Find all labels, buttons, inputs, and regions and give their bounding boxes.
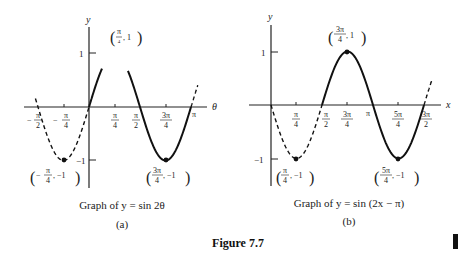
svg-text:3π: 3π xyxy=(162,111,170,120)
svg-text:4: 4 xyxy=(283,176,287,185)
panel-b: y x 1 −1 π 4 π 2 3π 4 π 5π 4 3π 2 ( 3π xyxy=(249,11,451,187)
svg-text:, −1: , −1 xyxy=(392,171,405,180)
svg-text:−: − xyxy=(53,116,58,125)
curve-a-dashed-right xyxy=(191,85,198,107)
y-tick-label-neg1-b: −1 xyxy=(254,155,264,165)
svg-text:5π: 5π xyxy=(394,110,402,119)
x-tick-labels-b: π 4 π 2 3π 4 π 5π 4 3π 2 xyxy=(292,109,432,129)
point-b-min-left xyxy=(294,157,299,162)
svg-text:π: π xyxy=(294,110,298,119)
svg-text:): ) xyxy=(185,169,190,187)
svg-text:π: π xyxy=(283,166,287,175)
svg-text:4: 4 xyxy=(345,120,349,129)
svg-text:4: 4 xyxy=(46,176,50,185)
panel-a: y θ 1 −1 − π 2 − π 4 π 4 π 2 3π 4 xyxy=(24,14,217,188)
svg-text:(: ( xyxy=(276,169,281,187)
svg-text:π: π xyxy=(366,109,370,118)
point-b-max xyxy=(345,50,350,55)
figure-label: Figure 7.7 xyxy=(212,236,264,251)
svg-text:(: ( xyxy=(146,169,151,187)
caption-b: Graph of y = sin (2x − π) xyxy=(294,197,405,209)
svg-text:π: π xyxy=(36,111,40,120)
svg-text:4: 4 xyxy=(384,176,388,185)
y-axis-label-a: y xyxy=(85,14,91,25)
caption-a: Graph of y = sin 2θ xyxy=(79,199,165,211)
svg-text:3π: 3π xyxy=(153,166,161,175)
x-tick-labels-a: − π 2 − π 4 π 4 π 2 3π 4 π xyxy=(27,110,196,130)
svg-text:): ) xyxy=(137,29,142,47)
y-tick-label-1-a: 1 xyxy=(79,49,84,59)
svg-text:, 1: , 1 xyxy=(346,31,354,40)
x-axis-label-a: θ xyxy=(212,101,217,112)
svg-text:π: π xyxy=(113,111,117,120)
sublabel-b: (b) xyxy=(343,215,356,227)
y-tick-label-1-b: 1 xyxy=(261,48,266,58)
svg-text:3π: 3π xyxy=(422,110,430,119)
svg-text:3π: 3π xyxy=(336,25,344,34)
svg-text:): ) xyxy=(414,169,419,187)
svg-text:(: ( xyxy=(374,169,379,187)
svg-text:): ) xyxy=(75,169,80,187)
svg-text:4: 4 xyxy=(118,39,121,44)
curve-b-dashed-right xyxy=(424,81,432,105)
svg-text:π: π xyxy=(324,110,328,119)
svg-text:2: 2 xyxy=(424,120,428,129)
svg-text:π: π xyxy=(192,110,196,119)
svg-text:π: π xyxy=(134,111,138,120)
svg-text:4: 4 xyxy=(294,120,298,129)
x-axis-label-b: x xyxy=(445,99,451,110)
svg-text:4: 4 xyxy=(164,121,168,130)
svg-text:−: − xyxy=(36,171,41,180)
svg-text:(: ( xyxy=(110,29,115,47)
svg-text:(: ( xyxy=(328,29,333,47)
svg-text:2: 2 xyxy=(324,120,328,129)
svg-text:3π: 3π xyxy=(343,110,351,119)
point-a-min-right xyxy=(164,158,169,163)
svg-text:π: π xyxy=(64,111,68,120)
svg-text:4: 4 xyxy=(64,121,68,130)
sublabel-a: (a) xyxy=(116,218,128,230)
point-labels-b: ( 3π 4 , 1 ) ( π 4 , −1 ) ( 5π 4 , −1 ) xyxy=(276,25,419,187)
margin-bar-mark xyxy=(453,234,458,249)
svg-text:4: 4 xyxy=(338,35,342,44)
svg-text:): ) xyxy=(309,169,314,187)
svg-text:4: 4 xyxy=(155,176,159,185)
svg-text:5π: 5π xyxy=(382,166,390,175)
svg-text:π: π xyxy=(117,27,121,36)
svg-text:, −1: , −1 xyxy=(53,171,66,180)
y-tick-label-neg1-a: −1 xyxy=(76,156,86,166)
svg-text:4: 4 xyxy=(396,120,400,129)
curve-a-dashed-left xyxy=(35,99,89,161)
svg-text:4: 4 xyxy=(113,121,117,130)
figure-canvas: y θ 1 −1 − π 2 − π 4 π 4 π 2 3π 4 xyxy=(0,0,476,253)
point-a-min-left xyxy=(62,158,67,163)
svg-text:2: 2 xyxy=(36,121,40,130)
curve-a-solid-rising xyxy=(89,69,102,107)
point-b-min-right xyxy=(396,157,401,162)
svg-text:(: ( xyxy=(30,169,35,187)
svg-text:): ) xyxy=(361,29,366,47)
y-axis-label-b: y xyxy=(267,11,273,22)
svg-text:, −1: , −1 xyxy=(290,171,303,180)
svg-text:, −1: , −1 xyxy=(163,171,176,180)
svg-text:, 1: , 1 xyxy=(123,33,131,42)
svg-text:π: π xyxy=(46,166,50,175)
svg-text:−: − xyxy=(27,116,32,125)
svg-text:2: 2 xyxy=(134,121,138,130)
